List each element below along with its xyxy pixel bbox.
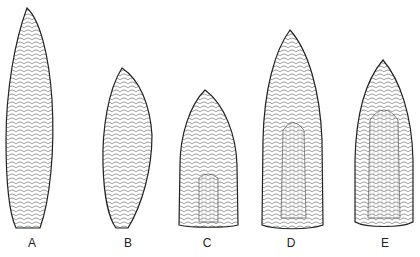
point-a <box>6 8 53 228</box>
label-b: B <box>118 236 138 250</box>
label-e: E <box>375 236 395 250</box>
label-c: C <box>197 236 217 250</box>
points-illustration <box>0 0 420 257</box>
label-a: A <box>22 236 42 250</box>
label-d: D <box>281 236 301 250</box>
point-d <box>262 30 323 229</box>
projectile-points-figure: A B C D E <box>0 0 420 257</box>
point-e <box>355 60 413 227</box>
point-c <box>179 90 238 227</box>
point-b <box>103 68 152 228</box>
